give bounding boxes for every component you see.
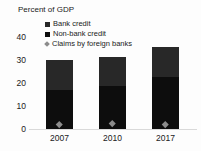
y-tick-label: 10 <box>10 102 26 111</box>
y-tick-label: 20 <box>10 79 26 88</box>
bar-segment-bank-credit <box>152 47 179 77</box>
x-axis-line <box>29 129 197 130</box>
bar-segment-bank-credit <box>46 60 73 90</box>
chart-figure: Percent of GDP Bank credit Non-bank cred… <box>0 0 201 151</box>
x-tick-label: 2017 <box>152 133 179 143</box>
y-tick-label: 40 <box>10 33 26 42</box>
y-tick-label: 0 <box>10 125 26 134</box>
bar-segment-bank-credit <box>99 57 126 87</box>
y-tick-label: 30 <box>10 56 26 65</box>
x-tick-label: 2007 <box>46 133 73 143</box>
plot-area: 010203040200720102017 <box>0 0 201 151</box>
x-tick-label: 2010 <box>99 133 126 143</box>
